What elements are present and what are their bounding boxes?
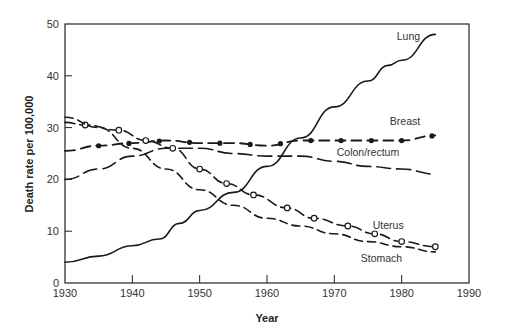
marker-dot <box>278 141 283 146</box>
plot-frame <box>65 24 469 283</box>
y-axis-title: Death rate per 100,000 <box>23 96 35 213</box>
axis-ticks: 193019401950196019701980199001020304050 <box>47 18 481 299</box>
y-tick-label: 50 <box>47 18 59 30</box>
marker-circle <box>284 205 290 211</box>
y-tick-label: 30 <box>47 122 59 134</box>
x-tick-label: 1960 <box>255 287 279 299</box>
marker-circle <box>311 215 317 221</box>
y-tick-label: 10 <box>47 225 59 237</box>
x-tick-label: 1980 <box>389 287 413 299</box>
marker-dot <box>338 138 343 143</box>
marker-circle <box>116 127 122 133</box>
marker-circle <box>372 231 378 237</box>
plot-border <box>65 24 469 283</box>
series-stomach <box>65 117 435 252</box>
marker-circle <box>399 239 405 245</box>
marker-dot <box>399 138 404 143</box>
marker-dot <box>248 142 253 147</box>
x-tick-label: 1950 <box>187 287 211 299</box>
marker-dot <box>308 138 313 143</box>
marker-circle <box>251 192 257 198</box>
marker-dot <box>96 143 101 148</box>
marker-circle <box>345 223 351 229</box>
series-label: Lung <box>397 30 421 42</box>
marker-dot <box>217 141 222 146</box>
x-tick-label: 1940 <box>120 287 144 299</box>
series-label: Uterus <box>373 219 404 231</box>
marker-circle <box>170 146 176 152</box>
y-tick-label: 0 <box>53 277 59 289</box>
marker-dot <box>187 140 192 145</box>
x-tick-label: 1990 <box>457 287 481 299</box>
marker-circle <box>224 181 230 187</box>
x-axis-title: Year <box>255 312 279 324</box>
y-tick-label: 20 <box>47 173 59 185</box>
marker-circle <box>197 166 203 172</box>
line-chart: 193019401950196019701980199001020304050 … <box>0 0 508 335</box>
marker-circle <box>433 244 439 250</box>
x-tick-label: 1970 <box>322 287 346 299</box>
marker-circle <box>143 138 149 144</box>
marker-dot <box>126 141 131 146</box>
y-tick-label: 40 <box>47 70 59 82</box>
series-label: Colon/rectum <box>337 146 400 158</box>
series-label: Breast <box>390 115 420 127</box>
marker-dot <box>429 133 434 138</box>
marker-dot <box>369 138 374 143</box>
series-label: Stomach <box>361 252 403 264</box>
